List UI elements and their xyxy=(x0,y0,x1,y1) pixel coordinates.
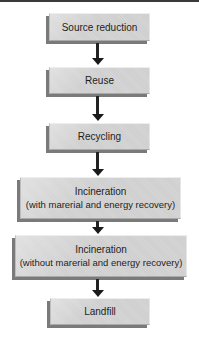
node-label-subtitle: (with marerial and energy recovery) xyxy=(26,198,175,211)
node-recycling: Recycling xyxy=(49,123,150,150)
arrow-down-icon xyxy=(92,279,104,297)
node-incineration-with-recovery: Incineration (with marerial and energy r… xyxy=(20,177,181,219)
node-incineration-without-recovery: Incineration (without marerial and energ… xyxy=(15,235,187,277)
node-landfill: Landfill xyxy=(50,298,150,325)
node-label-subtitle: (without marerial and energy recovery) xyxy=(20,256,183,269)
node-reuse: Reuse xyxy=(49,67,150,94)
node-label: Recycling xyxy=(78,130,121,143)
arrow-down-icon xyxy=(92,152,104,176)
top-rule xyxy=(0,0,199,2)
node-label: Source reduction xyxy=(62,21,138,34)
node-label-title: Incineration xyxy=(75,243,127,256)
arrow-down-icon xyxy=(92,96,104,121)
node-label: Reuse xyxy=(85,74,114,87)
node-label-title: Incineration xyxy=(75,185,127,198)
node-source-reduction: Source reduction xyxy=(49,13,150,41)
arrow-down-icon xyxy=(92,43,104,65)
node-label: Landfill xyxy=(84,305,116,318)
arrow-down-icon xyxy=(92,221,104,234)
